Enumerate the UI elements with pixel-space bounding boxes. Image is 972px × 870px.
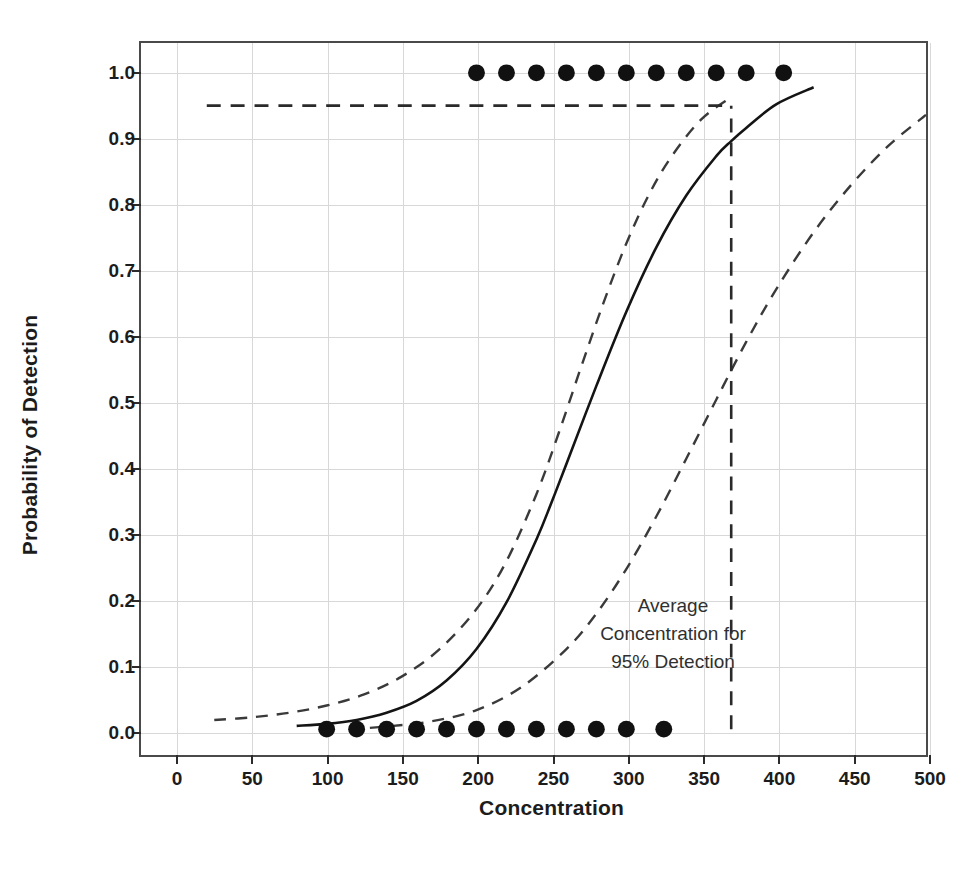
x-axis-tick-label: 350 <box>688 768 720 790</box>
data-point-marker <box>678 64 695 81</box>
data-point-marker <box>588 64 605 81</box>
y-axis-tick-label: 0.9 <box>109 128 135 150</box>
y-axis-tick-label: 0.4 <box>109 458 135 480</box>
data-point-marker <box>558 721 575 738</box>
y-axis-tick-label: 0.7 <box>109 260 135 282</box>
x-axis-tick-label: 150 <box>387 768 419 790</box>
y-axis-tick-label: 0.3 <box>109 524 135 546</box>
y-axis-tick-label: 0.5 <box>109 392 135 414</box>
data-point-marker <box>648 64 665 81</box>
data-point-marker <box>378 721 395 738</box>
y-axis-title: Probability of Detection <box>0 0 60 870</box>
y-axis-tick-label: 0.0 <box>109 722 135 744</box>
x-axis-tick-label: 250 <box>538 768 570 790</box>
data-point-marker <box>468 64 485 81</box>
y-axis-tick-label: 0.1 <box>109 656 135 678</box>
x-axis-tick-label: 50 <box>242 768 263 790</box>
x-axis-tick <box>251 755 253 764</box>
y-axis-title-text: Probability of Detection <box>18 315 42 556</box>
y-axis-tick-label: 0.2 <box>109 590 135 612</box>
data-overlay <box>141 43 926 755</box>
data-point-marker <box>438 721 455 738</box>
data-point-marker <box>558 64 575 81</box>
y-axis-tick-label: 0.8 <box>109 194 135 216</box>
data-point-marker <box>775 64 792 81</box>
data-point-marker <box>408 721 425 738</box>
data-point-marker <box>588 721 605 738</box>
average-concentration-callout: AverageConcentration for95% Detection <box>578 592 768 676</box>
x-axis-tick <box>703 755 705 764</box>
y-axis-tick-label: 0.6 <box>109 326 135 348</box>
data-point-marker <box>708 64 725 81</box>
x-axis-title: Concentration <box>175 796 928 820</box>
annotation-line: Average <box>578 592 768 620</box>
data-point-marker <box>498 721 515 738</box>
x-axis-tick <box>929 755 931 764</box>
data-point-marker <box>618 64 635 81</box>
x-axis-tick-label: 450 <box>839 768 871 790</box>
x-axis-tick-label: 300 <box>613 768 645 790</box>
x-axis-tick-label: 500 <box>914 768 946 790</box>
x-axis-tick <box>854 755 856 764</box>
data-point-marker <box>528 64 545 81</box>
x-axis-tick-label: 100 <box>312 768 344 790</box>
data-point-marker <box>618 721 635 738</box>
annotation-line: 95% Detection <box>578 648 768 676</box>
data-point-marker <box>348 721 365 738</box>
x-axis-tick <box>477 755 479 764</box>
gridline-vertical <box>930 43 931 755</box>
x-axis-tick <box>778 755 780 764</box>
data-point-marker <box>318 721 335 738</box>
x-axis-tick-label: 400 <box>764 768 796 790</box>
y-axis-tick-label: 1.0 <box>109 62 135 84</box>
data-point-marker <box>498 64 515 81</box>
x-axis-tick <box>553 755 555 764</box>
data-point-marker <box>738 64 755 81</box>
x-axis-tick <box>628 755 630 764</box>
data-point-marker <box>655 721 672 738</box>
chart-figure: Probability of Detection 0.00.10.20.30.4… <box>0 0 972 870</box>
x-axis-tick-label: 200 <box>462 768 494 790</box>
x-axis-tick-label: 0 <box>172 768 183 790</box>
plot-area: 0.00.10.20.30.40.50.60.70.80.91.00501001… <box>139 41 928 757</box>
x-axis-tick <box>176 755 178 764</box>
data-point-marker <box>528 721 545 738</box>
x-axis-tick <box>402 755 404 764</box>
x-axis-tick <box>327 755 329 764</box>
annotation-line: Concentration for <box>578 620 768 648</box>
data-point-marker <box>468 721 485 738</box>
